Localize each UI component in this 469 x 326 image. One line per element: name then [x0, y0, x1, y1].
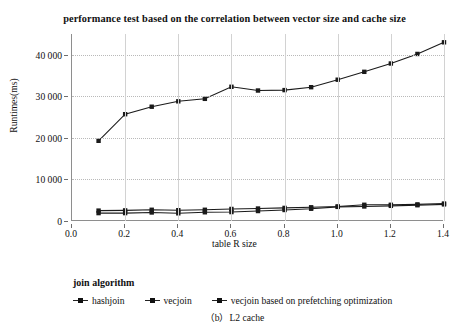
series-2: [96, 202, 446, 215]
plot-area: [71, 34, 443, 221]
x-tick-mark: [284, 224, 285, 228]
x-tick-mark: [124, 224, 125, 228]
data-point: [256, 209, 260, 213]
gridline-horizontal: [72, 55, 444, 56]
series-line: [99, 42, 444, 140]
legend-label: hashjoin: [92, 295, 125, 306]
legend-item-2[interactable]: vecjoin based on prefetching optimizatio…: [212, 295, 392, 306]
y-tick-mark: [64, 179, 68, 180]
y-tick-mark: [64, 96, 68, 97]
y-tick-label: 40 000: [36, 49, 62, 60]
data-point: [362, 204, 366, 208]
data-point: [150, 105, 154, 109]
chart-title: performance test based on the correlatio…: [0, 13, 469, 24]
data-point: [96, 211, 100, 215]
gridline-horizontal: [72, 96, 444, 97]
x-tick-mark: [390, 224, 391, 228]
data-point: [309, 207, 313, 211]
data-point: [96, 139, 100, 143]
x-tick-mark: [230, 224, 231, 228]
legend-label: vecjoin based on prefetching optimizatio…: [231, 295, 392, 306]
gridline-vertical: [444, 34, 445, 221]
gridline-horizontal: [72, 179, 444, 180]
x-axis-title: table R size: [0, 238, 469, 249]
legend-item-0[interactable]: hashjoin: [73, 295, 125, 306]
data-point: [362, 70, 366, 74]
gridline-vertical: [391, 34, 392, 221]
x-axis-tick-labels: 0.00.20.40.60.81.01.21.4: [71, 224, 443, 238]
x-tick-mark: [443, 224, 444, 228]
x-tick-mark: [177, 224, 178, 228]
data-point: [150, 210, 154, 214]
legend-title: join algorithm: [73, 277, 134, 288]
data-point: [256, 88, 260, 92]
legend-label: vecjoin: [164, 295, 192, 306]
chart-legend: hashjoinvecjoinvecjoin based on prefetch…: [73, 295, 453, 306]
y-tick-label: 10 000: [36, 174, 62, 185]
y-tick-label: 30 000: [36, 91, 62, 102]
x-tick-mark: [337, 224, 338, 228]
y-tick-mark: [64, 138, 68, 139]
gridline-vertical: [338, 34, 339, 221]
y-axis-tick-labels: 010 00020 00030 00040 000: [0, 34, 68, 221]
series-layer: [72, 34, 444, 221]
x-tick-mark: [71, 224, 72, 228]
figure-caption: （b）L2 cache: [0, 310, 469, 324]
data-point: [415, 203, 419, 207]
gridline-vertical: [231, 34, 232, 221]
chart-figure: performance test based on the correlatio…: [0, 0, 469, 326]
legend-item-1[interactable]: vecjoin: [145, 295, 192, 306]
y-tick-label: 20 000: [36, 132, 62, 143]
y-tick-label: 0: [57, 216, 62, 227]
y-tick-mark: [64, 55, 68, 56]
legend-marker-icon: [212, 297, 227, 305]
gridline-vertical: [125, 34, 126, 221]
y-tick-mark: [64, 221, 68, 222]
legend-marker-icon: [73, 297, 88, 305]
series-1: [96, 201, 446, 212]
data-point: [309, 85, 313, 89]
gridline-horizontal: [72, 138, 444, 139]
legend-marker-icon: [145, 297, 160, 305]
gridline-vertical: [178, 34, 179, 221]
data-point: [203, 210, 207, 214]
gridline-vertical: [285, 34, 286, 221]
